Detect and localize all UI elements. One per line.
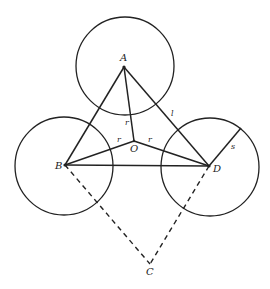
label-r-do: r [148, 135, 153, 144]
segment-bd [65, 165, 209, 166]
label-r-bo: r [117, 135, 122, 144]
segment-ab [65, 67, 124, 165]
label-c: C [146, 266, 154, 277]
point-a [122, 65, 125, 68]
geometry-diagram: A B D O C l s r r r [0, 0, 270, 289]
segment-bo [65, 141, 134, 165]
point-o [133, 140, 135, 142]
label-l: l [171, 109, 174, 118]
segment-ao [124, 67, 134, 141]
label-s: s [231, 142, 235, 151]
segment-bc [65, 165, 150, 264]
label-o: O [130, 143, 138, 154]
label-b: B [54, 160, 62, 171]
label-d: D [212, 163, 221, 174]
point-d [207, 164, 210, 167]
point-b [63, 163, 66, 166]
segment-radius-s [209, 128, 241, 166]
label-r-ao: r [125, 118, 130, 127]
label-a: A [119, 52, 127, 63]
